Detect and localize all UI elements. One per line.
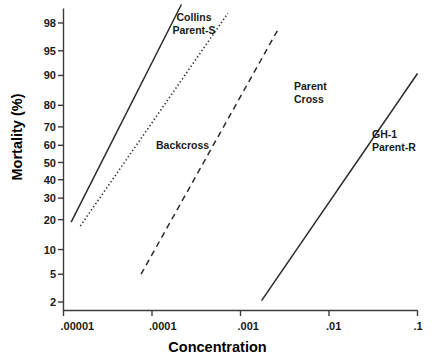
series-label-parent-cross: Parent Cross — [294, 80, 350, 105]
x-tick-label-.00001: .00001 — [61, 320, 95, 332]
y-axis-title-wrapper: Mortality (%) — [8, 77, 26, 197]
y-tick-label-5: 5 — [18, 268, 56, 280]
x-tick-label-.0001: .0001 — [149, 320, 177, 332]
axis-ticks-group — [58, 23, 418, 316]
series-line-collins-parent-s — [71, 4, 181, 222]
chart-container: 989590807060504030201052 .00001.0001.001… — [0, 0, 435, 364]
series-line-parent-cross — [141, 29, 278, 274]
y-axis-title: Mortality (%) — [9, 94, 25, 181]
series-line-gh-1-parent-r — [262, 73, 418, 300]
axis-frame — [64, 9, 418, 311]
y-tick-label-95: 95 — [18, 45, 56, 57]
series-label-gh-1-parent-r: GH-1 Parent-R — [372, 128, 428, 153]
chart-plot-area — [0, 0, 435, 364]
x-axis-title: Concentration — [0, 339, 435, 355]
x-tick-label-.001: .001 — [238, 320, 259, 332]
x-tick-label-.1: .1 — [414, 320, 423, 332]
y-tick-label-10: 10 — [18, 244, 56, 256]
series-label-backcross: Backcross — [156, 139, 218, 152]
data-series-group — [71, 4, 417, 300]
y-tick-label-20: 20 — [18, 214, 56, 226]
series-label-collins-parent-s: Collins Parent-S — [160, 11, 228, 36]
y-tick-label-98: 98 — [18, 17, 56, 29]
axes-group — [64, 9, 418, 311]
y-tick-label-2: 2 — [18, 296, 56, 308]
series-line-backcross — [80, 13, 228, 226]
x-tick-label-.01: .01 — [326, 320, 341, 332]
